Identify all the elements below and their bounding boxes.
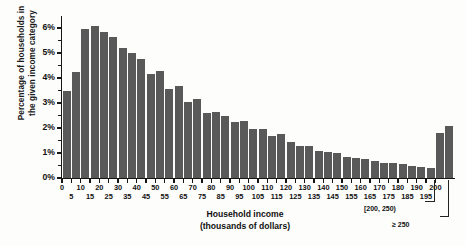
- x-tick-label: 80: [207, 183, 215, 192]
- bar: [305, 146, 313, 179]
- x-tick-label: 60: [170, 183, 178, 192]
- y-tick-mark: [57, 52, 61, 53]
- x-tick-mark: [164, 179, 165, 183]
- x-tick-label: 110: [261, 183, 273, 192]
- x-tick-label: 50: [151, 183, 159, 192]
- bar: [333, 153, 341, 178]
- bar: [240, 121, 248, 179]
- annotation-leader-line: [448, 180, 449, 216]
- x-tick-label: 40: [133, 183, 141, 192]
- x-tick-label: 35: [123, 192, 131, 201]
- x-tick-label: 130: [298, 183, 310, 192]
- bar: [380, 163, 388, 178]
- bar: [81, 29, 89, 178]
- bar: [91, 26, 99, 179]
- bar: [249, 129, 257, 178]
- x-tick-label: 25: [105, 192, 113, 201]
- bar-series: [62, 18, 454, 178]
- x-tick-mark: [71, 179, 72, 183]
- x-tick-label: 65: [179, 192, 187, 201]
- bar: [277, 134, 285, 178]
- bar: [361, 159, 369, 178]
- bar: [63, 91, 71, 179]
- y-tick-mark: [57, 177, 61, 178]
- bar: [427, 168, 435, 178]
- bar: [156, 71, 164, 179]
- y-tick-label: 4%: [43, 72, 55, 82]
- bar: [259, 129, 267, 178]
- x-tick-label: 5: [69, 192, 73, 201]
- bar: [128, 53, 136, 178]
- y-tick-label: 2%: [43, 122, 55, 132]
- x-tick-mark: [425, 179, 426, 183]
- x-tick-label: 90: [226, 183, 234, 192]
- y-tick-label: 5%: [43, 47, 55, 57]
- x-tick-mark: [313, 179, 314, 183]
- y-tick-mark: [58, 165, 61, 166]
- bar: [175, 86, 183, 179]
- x-tick-label: 165: [364, 192, 376, 201]
- bar: [445, 126, 453, 179]
- bar: [184, 102, 192, 178]
- bar: [389, 163, 397, 178]
- x-tick-mark: [388, 179, 389, 183]
- bar: [287, 142, 295, 178]
- annotation-200-250: [200, 250): [364, 205, 396, 212]
- x-tick-label: 140: [317, 183, 329, 192]
- x-tick-mark: [351, 179, 352, 183]
- x-tick-label: 45: [142, 192, 150, 201]
- x-tick-label: 70: [189, 183, 197, 192]
- bar: [399, 164, 407, 178]
- bar: [212, 112, 220, 178]
- x-tick-label: 180: [392, 183, 404, 192]
- annotation-leader-line: [434, 180, 435, 202]
- x-tick-mark: [332, 179, 333, 183]
- bar: [119, 48, 127, 178]
- x-tick-mark: [89, 179, 90, 183]
- bar: [193, 99, 201, 178]
- x-tick-label: 10: [77, 183, 85, 192]
- bar: [221, 116, 229, 179]
- x-tick-label: 115: [271, 192, 283, 201]
- x-tick-mark: [257, 179, 258, 183]
- bar: [100, 32, 108, 178]
- x-tick-label: 175: [382, 192, 394, 201]
- y-tick-mark: [58, 140, 61, 141]
- bar: [324, 152, 332, 178]
- bar: [147, 74, 155, 178]
- bar: [371, 161, 379, 179]
- x-tick-label: 195: [420, 192, 432, 201]
- y-tick-mark: [58, 115, 61, 116]
- x-tick-label: 155: [345, 192, 357, 201]
- annotation-ge-250: ≥ 250: [392, 221, 409, 228]
- x-tick-mark: [276, 179, 277, 183]
- bar: [231, 122, 239, 178]
- x-tick-label: 0: [60, 183, 64, 192]
- x-tick-mark: [108, 179, 109, 183]
- x-tick-label: 185: [401, 192, 413, 201]
- y-tick-mark: [58, 65, 61, 66]
- y-tick-mark: [57, 127, 61, 128]
- y-tick-mark: [58, 90, 61, 91]
- y-tick-label: 6%: [43, 22, 55, 32]
- y-tick-label: 0%: [43, 172, 55, 182]
- x-tick-label: 190: [410, 183, 422, 192]
- bar: [352, 158, 360, 178]
- x-tick-label: 135: [308, 192, 320, 201]
- x-tick-label: 160: [354, 183, 366, 192]
- x-tick-mark: [239, 179, 240, 183]
- x-tick-label: 170: [373, 183, 385, 192]
- x-tick-mark: [183, 179, 184, 183]
- x-tick-mark: [407, 179, 408, 183]
- x-tick-label: 55: [161, 192, 169, 201]
- x-tick-mark: [127, 179, 128, 183]
- x-tick-label: 105: [252, 192, 264, 201]
- bar: [165, 89, 173, 178]
- bar: [203, 113, 211, 178]
- x-tick-label: 20: [95, 183, 103, 192]
- x-tick-label: 150: [336, 183, 348, 192]
- x-tick-label: 125: [289, 192, 301, 201]
- x-tick-label: 200: [429, 183, 441, 192]
- x-tick-label: 15: [86, 192, 94, 201]
- x-tick-mark: [369, 179, 370, 183]
